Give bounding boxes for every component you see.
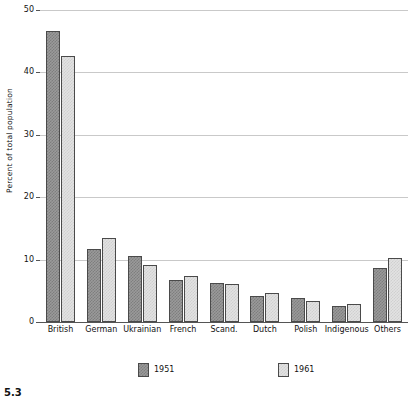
bar bbox=[265, 293, 279, 322]
legend-swatch-icon bbox=[138, 363, 149, 377]
bar bbox=[373, 268, 387, 322]
y-tick-mark-10 bbox=[36, 260, 40, 261]
bar bbox=[291, 298, 305, 322]
bar bbox=[306, 301, 320, 322]
y-tick-mark-0 bbox=[36, 322, 40, 323]
bar bbox=[347, 304, 361, 322]
x-tick-label: Others bbox=[348, 326, 417, 334]
y-tick-label-30: 30 bbox=[8, 131, 34, 139]
y-tick-label-40: 40 bbox=[8, 68, 34, 76]
plot-area bbox=[40, 10, 408, 322]
bar-group bbox=[128, 10, 157, 322]
bar-group bbox=[250, 10, 279, 322]
bar bbox=[102, 238, 116, 322]
bar bbox=[61, 56, 75, 322]
y-tick-label-10: 10 bbox=[8, 256, 34, 264]
y-tick-mark-50 bbox=[36, 10, 40, 11]
bar bbox=[225, 284, 239, 322]
bar bbox=[184, 276, 198, 322]
chart-legend: 19511961 bbox=[0, 363, 417, 381]
figure-5-3: Percent of total population 01020304050 … bbox=[0, 0, 417, 405]
bar bbox=[169, 280, 183, 322]
bar-group bbox=[210, 10, 239, 322]
bar bbox=[87, 249, 101, 322]
y-tick-mark-20 bbox=[36, 197, 40, 198]
y-tick-label-50: 50 bbox=[8, 6, 34, 14]
gridline-0 bbox=[40, 322, 408, 323]
bar bbox=[332, 306, 346, 322]
y-tick-mark-30 bbox=[36, 135, 40, 136]
bar bbox=[250, 296, 264, 322]
bar bbox=[210, 283, 224, 322]
bar bbox=[46, 31, 60, 322]
bar-group bbox=[373, 10, 402, 322]
bar bbox=[128, 256, 142, 322]
y-tick-mark-40 bbox=[36, 72, 40, 73]
legend-label: 1961 bbox=[294, 366, 314, 374]
legend-item-1961: 1961 bbox=[278, 363, 314, 377]
bar bbox=[143, 265, 157, 322]
bar-group bbox=[46, 10, 75, 322]
y-tick-label-0: 0 bbox=[8, 318, 34, 326]
bar-group bbox=[169, 10, 198, 322]
legend-label: 1951 bbox=[154, 366, 174, 374]
legend-item-1951: 1951 bbox=[138, 363, 174, 377]
bar-group bbox=[332, 10, 361, 322]
y-axis-title: Percent of total population bbox=[4, 88, 16, 193]
bar-group bbox=[87, 10, 116, 322]
bar-group bbox=[291, 10, 320, 322]
figure-number: 5.3 bbox=[4, 388, 22, 398]
legend-swatch-icon bbox=[278, 363, 289, 377]
bar bbox=[388, 258, 402, 322]
y-tick-label-20: 20 bbox=[8, 193, 34, 201]
